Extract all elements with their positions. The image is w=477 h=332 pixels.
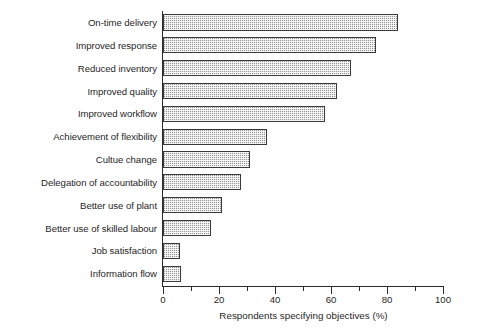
x-tick-major	[443, 287, 444, 294]
x-tick-major	[275, 287, 276, 294]
bar-row	[163, 195, 443, 217]
bar	[163, 151, 250, 167]
bar-row	[163, 172, 443, 194]
x-tick-major	[387, 287, 388, 294]
bar-row	[163, 103, 443, 125]
x-tick-major	[219, 287, 220, 294]
x-tick-minor	[247, 287, 248, 291]
x-tick-major	[163, 287, 164, 294]
bar	[163, 220, 211, 236]
bar	[163, 60, 351, 76]
category-label: Delegation of accountability	[0, 172, 157, 194]
category-label: Improved workflow	[0, 103, 157, 125]
bar-row	[163, 240, 443, 262]
bar	[163, 129, 267, 145]
x-axis-title: Respondents specifying objectives (%)	[163, 310, 444, 321]
bar	[163, 243, 180, 259]
bar-row	[163, 263, 443, 285]
category-label: Reduced inventory	[0, 58, 157, 80]
category-label: Improved response	[0, 35, 157, 57]
bar	[163, 174, 241, 190]
category-label: Achievement of flexibility	[0, 126, 157, 148]
bar-series	[163, 12, 443, 286]
x-axis-tick-labels: 020406080100	[163, 294, 444, 308]
category-label: Better use of skilled labour	[0, 218, 157, 240]
x-tick-major	[331, 287, 332, 294]
bar-row	[163, 12, 443, 34]
bar	[163, 266, 181, 282]
bar	[163, 14, 398, 30]
x-tick-label: 80	[382, 294, 393, 305]
x-tick-label: 40	[270, 294, 281, 305]
x-tick-minor	[415, 287, 416, 291]
category-label: On-time delivery	[0, 12, 157, 34]
x-tick-minor	[359, 287, 360, 291]
category-label: Job satisfaction	[0, 240, 157, 262]
category-axis-labels: On-time deliveryImproved responseReduced…	[0, 12, 157, 286]
bar-row	[163, 218, 443, 240]
bar	[163, 37, 376, 53]
category-label: Cultue change	[0, 149, 157, 171]
bar	[163, 83, 337, 99]
category-label: Improved quality	[0, 81, 157, 103]
x-tick-label: 60	[326, 294, 337, 305]
bar-chart: On-time deliveryImproved responseReduced…	[0, 0, 477, 332]
bar-row	[163, 126, 443, 148]
bar	[163, 197, 222, 213]
bar-row	[163, 81, 443, 103]
bar-row	[163, 35, 443, 57]
x-tick-label: 20	[214, 294, 225, 305]
category-label: Better use of plant	[0, 195, 157, 217]
x-tick-minor	[303, 287, 304, 291]
x-tick-label: 100	[435, 294, 451, 305]
x-tick-label: 0	[160, 294, 165, 305]
bar	[163, 106, 325, 122]
bar-row	[163, 149, 443, 171]
category-label: Information flow	[0, 263, 157, 285]
bar-row	[163, 58, 443, 80]
x-tick-minor	[191, 287, 192, 291]
